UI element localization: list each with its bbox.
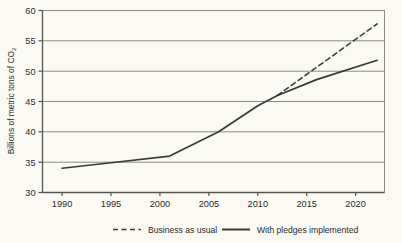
line-chart: 30354045505560 1990199520002005201020152… — [0, 0, 402, 243]
legend-label-with-pledges-implemented: With pledges implemented — [257, 225, 358, 235]
legend-label-business-as-usual: Business as usual — [148, 225, 217, 235]
y-tick-label-55: 55 — [25, 36, 35, 46]
y-axis-label: Billions of metric tons of CO2 — [6, 47, 17, 154]
y-tick-label-30: 30 — [25, 188, 35, 198]
y-tick-label-45: 45 — [25, 97, 35, 107]
x-tick-label-2020: 2020 — [345, 199, 365, 209]
y-tick-label-60: 60 — [25, 6, 35, 16]
x-tick-label-1990: 1990 — [52, 199, 72, 209]
x-tick-label-1995: 1995 — [101, 199, 121, 209]
y-tick-label-40: 40 — [25, 127, 35, 137]
chart-figure: 30354045505560 1990199520002005201020152… — [0, 0, 402, 243]
y-tick-label-35: 35 — [25, 158, 35, 168]
x-tick-label-2000: 2000 — [150, 199, 170, 209]
x-tick-label-2005: 2005 — [199, 199, 219, 209]
x-tick-label-2010: 2010 — [248, 199, 268, 209]
x-tick-label-2015: 2015 — [296, 199, 316, 209]
y-axis-label-text: Billions of metric tons of CO2 — [6, 47, 17, 154]
y-tick-label-50: 50 — [25, 67, 35, 77]
